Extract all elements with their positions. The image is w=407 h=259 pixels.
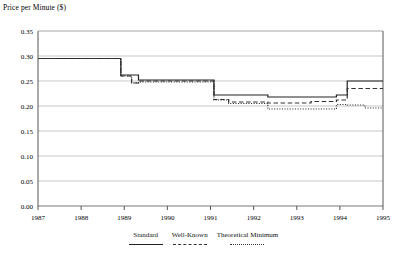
legend-item-well-known: Well-Known [172, 232, 208, 248]
x-tick-label: 1995 [376, 214, 391, 222]
legend-item-standard: Standard [129, 232, 163, 248]
x-tick-label: 1991 [204, 214, 219, 222]
legend-label-theoretical-minimum: Theoretical Minimum [217, 232, 279, 239]
x-tick-label: 1988 [74, 214, 89, 222]
x-tick-label: 1992 [247, 214, 262, 222]
legend-swatch-dashed-icon [173, 242, 207, 248]
y-tick-label: 0.00 [21, 203, 34, 211]
legend-item-theoretical-minimum: Theoretical Minimum [217, 232, 279, 248]
plot-area: 0.000.050.100.150.200.250.300.3519871988… [0, 0, 407, 259]
y-tick-label: 0.35 [21, 28, 34, 36]
chart-canvas: 0.000.050.100.150.200.250.300.3519871988… [0, 0, 407, 259]
y-tick-label: 0.30 [21, 53, 34, 61]
x-tick-label: 1994 [333, 214, 348, 222]
y-tick-label: 0.15 [21, 128, 34, 136]
x-tick-label: 1993 [290, 214, 305, 222]
y-tick-label: 0.20 [21, 103, 34, 111]
y-tick-label: 0.10 [21, 153, 34, 161]
x-tick-label: 1987 [31, 214, 46, 222]
chart-root: Price per Minute ($) 0.000.050.100.150.2… [0, 0, 407, 259]
x-tick-label: 1990 [160, 214, 175, 222]
legend-swatch-dotted-icon [230, 242, 264, 248]
chart-legend: Standard Well-Known Theoretical Minimum [0, 232, 407, 248]
series-line-standard [38, 59, 383, 98]
legend-label-well-known: Well-Known [172, 232, 208, 239]
y-tick-label: 0.25 [21, 78, 34, 86]
legend-label-standard: Standard [133, 232, 158, 239]
x-tick-label: 1989 [117, 214, 132, 222]
y-tick-label: 0.05 [21, 178, 34, 186]
legend-swatch-solid-icon [129, 242, 163, 248]
